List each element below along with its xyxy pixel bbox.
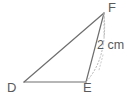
dotted-tick-lower [99,55,103,70]
edge-d-f [24,13,104,82]
vertex-label-e: E [83,81,92,94]
geometry-figure: D E F 2 cm [0,0,132,101]
vertex-label-f: F [108,1,116,14]
measurement-label-ef: 2 cm [97,39,124,52]
vertex-label-d: D [7,81,16,94]
